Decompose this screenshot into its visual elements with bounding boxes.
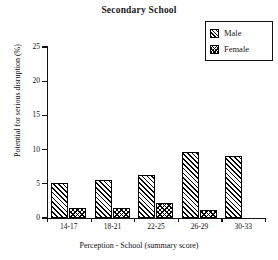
- bar-male-26-29: [182, 152, 199, 218]
- y-axis-title: Potential for serious disruption (%): [13, 21, 22, 181]
- x-tick-label-14-17: 14-17: [46, 223, 92, 231]
- bar-male-14-17: [51, 183, 68, 218]
- chart-figure: Secondary School Male Female 0510152025 …: [0, 0, 278, 260]
- bar-male-18-21: [95, 180, 112, 218]
- y-tick-label-0: 0: [2, 214, 40, 222]
- legend-item-male: Male: [210, 25, 268, 41]
- x-tick-14-17: [91, 218, 92, 222]
- bar-female-14-17: [69, 208, 86, 218]
- bar-female-26-29: [200, 210, 217, 218]
- bar-female-18-21: [113, 208, 130, 218]
- x-tick-18-21: [134, 218, 135, 222]
- x-tick-30-33: [265, 218, 266, 222]
- bar-female-22-25: [156, 203, 173, 218]
- x-tick-label-22-25: 22-25: [133, 223, 179, 231]
- x-tick-22-25: [178, 218, 179, 222]
- chart-title: Secondary School: [0, 5, 278, 15]
- bar-male-30-33: [225, 156, 242, 218]
- x-tick-label-26-29: 26-29: [177, 223, 223, 231]
- bar-male-22-25: [138, 175, 155, 218]
- y-tick-label-wrap: 5: [0, 180, 40, 188]
- plot-area: [47, 47, 265, 218]
- y-tick-label-5: 5: [2, 180, 40, 188]
- x-tick-label-18-21: 18-21: [89, 223, 135, 231]
- x-tick-26-29: [221, 218, 222, 222]
- x-tick-origin: [47, 218, 48, 222]
- legend-label-male: Male: [224, 29, 241, 38]
- x-tick-label-30-33: 30-33: [220, 223, 266, 231]
- legend-swatch-male-icon: [210, 29, 219, 38]
- x-axis-title: Perception - School (summary score): [0, 241, 278, 250]
- y-tick-label-wrap: 0: [0, 214, 40, 222]
